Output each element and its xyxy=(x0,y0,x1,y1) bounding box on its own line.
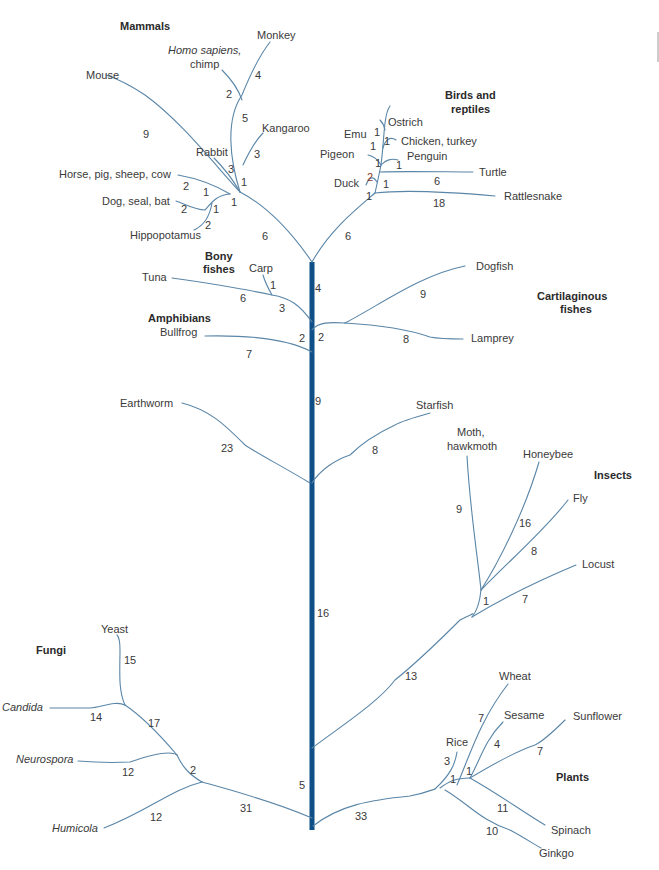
taxon-sesame: Sesame xyxy=(504,709,544,721)
branch-length: 7 xyxy=(522,593,528,605)
taxon-monkey: Monkey xyxy=(257,29,296,41)
branch-length: 5 xyxy=(242,112,248,124)
taxon-emu: Emu xyxy=(344,128,367,140)
taxon-kangaroo: Kangaroo xyxy=(262,122,310,134)
branch-length: 1 xyxy=(384,135,390,147)
phylogenetic-tree-figure: Mammals Monkey Homo sapiens, chimp Mouse… xyxy=(0,0,659,870)
branch-length: 1 xyxy=(270,279,276,291)
taxon-earthworm: Earthworm xyxy=(120,397,173,409)
taxon-locust: Locust xyxy=(582,558,614,570)
branch-length: 9 xyxy=(420,288,426,300)
branch-length: 4 xyxy=(494,738,500,750)
group-label-cartilaginous: Cartilaginous xyxy=(537,290,607,302)
tree-diagram: Mammals Monkey Homo sapiens, chimp Mouse… xyxy=(0,0,659,870)
group-label-reptiles: reptiles xyxy=(451,103,490,115)
taxon-wheat: Wheat xyxy=(499,670,531,682)
branch-length: 2 xyxy=(299,332,305,344)
branch-wheat xyxy=(457,684,508,785)
branch-length: 9 xyxy=(315,395,321,407)
branch-length: 2 xyxy=(367,171,373,183)
invertebrates-clade: Earthworm Starfish 9 23 8 xyxy=(120,395,453,483)
taxon-rabbit: Rabbit xyxy=(196,146,228,158)
taxon-moth: Moth, xyxy=(457,426,485,438)
taxon-pigeon: Pigeon xyxy=(320,148,354,160)
taxon-rattlesnake: Rattlesnake xyxy=(504,190,562,202)
group-label-bony: Bony xyxy=(205,250,233,262)
branch-length: 14 xyxy=(90,711,102,723)
branch-length: 8 xyxy=(403,333,409,345)
branch-length: 6 xyxy=(262,230,268,242)
branch-length: 8 xyxy=(372,444,378,456)
birds-reptiles-clade: Birds and reptiles Emu Ostrich Chicken, … xyxy=(312,89,562,262)
branch-sesame xyxy=(470,722,503,778)
branch-length: 18 xyxy=(433,197,445,209)
taxon-hawkmoth: hawkmoth xyxy=(447,440,497,452)
branch-ginkgo xyxy=(445,790,541,848)
group-label-insects: Insects xyxy=(594,469,632,481)
branch-length: 1 xyxy=(366,190,372,202)
branch-length: 6 xyxy=(345,230,351,242)
branch-fungi-stem xyxy=(202,782,312,818)
branch-length: 1 xyxy=(203,186,209,198)
taxon-ostrich: Ostrich xyxy=(388,116,423,128)
taxon-hippopotamus: Hippopotamus xyxy=(130,229,201,241)
taxon-carp: Carp xyxy=(249,262,273,274)
branch-length: 8 xyxy=(531,545,537,557)
group-label-fungi: Fungi xyxy=(36,644,66,656)
branch-length: 15 xyxy=(124,654,136,666)
group-label-fishes: fishes xyxy=(203,263,235,275)
branch-length: 1 xyxy=(370,140,376,152)
branch-monkey xyxy=(231,42,270,192)
branch-rattlesnake xyxy=(375,192,495,196)
branch-length: 9 xyxy=(456,503,462,515)
branch-length: 1 xyxy=(231,196,237,208)
group-label-amphibians: Amphibians xyxy=(148,312,211,324)
branch-length: 3 xyxy=(254,148,260,160)
branch-length: 4 xyxy=(255,69,261,81)
branch-length: 2 xyxy=(190,764,196,776)
branch-length: 3 xyxy=(279,302,285,314)
fungi-clade: Fungi Yeast Candida Neurospora Humicola … xyxy=(2,623,312,834)
insects-clade: Insects Moth, hawkmoth Honeybee Fly Locu… xyxy=(312,426,632,748)
branch-insect-stem xyxy=(312,614,473,748)
taxon-penguin: Penguin xyxy=(407,150,447,162)
branch-dogfish xyxy=(345,266,465,323)
branch-length: 16 xyxy=(519,517,531,529)
branch-cart-stem xyxy=(312,323,345,330)
taxon-fly: Fly xyxy=(573,492,588,504)
taxon-lamprey: Lamprey xyxy=(471,332,514,344)
taxon-yeast: Yeast xyxy=(101,623,128,635)
branch-length: 2 xyxy=(226,88,232,100)
branch-fly xyxy=(481,500,568,590)
plants-clade: Plants Wheat Sesame Sunflower Rice Spina… xyxy=(313,670,622,859)
branch-yeast xyxy=(117,635,125,705)
fishes-amphibians-clade: Bony fishes Amphibians Tuna Carp Bullfro… xyxy=(142,250,324,360)
branch-length: 3 xyxy=(228,163,234,175)
branch-moth xyxy=(467,456,481,590)
taxon-dogfish: Dogfish xyxy=(476,260,513,272)
taxon-honeybee: Honeybee xyxy=(523,448,573,460)
mammals-clade: Mammals Monkey Homo sapiens, chimp Mouse… xyxy=(59,20,312,262)
group-label-fishes-2: fishes xyxy=(560,303,592,315)
branch-length: 4 xyxy=(315,282,321,294)
taxon-turtle: Turtle xyxy=(479,166,507,178)
taxon-candida: Candida xyxy=(2,701,43,713)
branch-length: 13 xyxy=(405,670,417,682)
group-label-birds: Birds and xyxy=(445,89,496,101)
branch-starfish xyxy=(312,413,430,483)
branch-length: 11 xyxy=(497,802,508,814)
branch-length: 1 xyxy=(466,765,472,777)
branch-length: 6 xyxy=(240,292,246,304)
branch-bullfrog xyxy=(205,336,312,352)
branch-neurospora xyxy=(78,753,177,762)
branch-length: 1 xyxy=(213,203,219,215)
taxon-tuna: Tuna xyxy=(142,271,168,283)
branch-length: 16 xyxy=(317,607,329,619)
branch-length: 1 xyxy=(450,773,456,785)
branch-locust xyxy=(472,565,576,617)
taxon-horse-pig-sheep-cow: Horse, pig, sheep, cow xyxy=(59,168,171,180)
branch-length: 1 xyxy=(396,159,402,171)
branch-length: 1 xyxy=(375,157,381,169)
taxon-homo-sapiens: Homo sapiens, xyxy=(168,44,241,56)
branch-length: 7 xyxy=(478,712,484,724)
